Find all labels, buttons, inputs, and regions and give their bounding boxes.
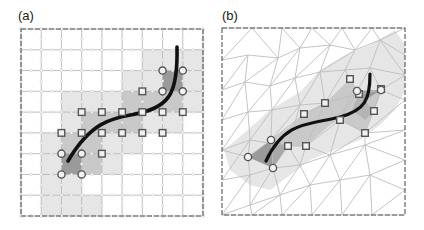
circle-node-marker [159,67,166,74]
square-node-marker [58,130,65,137]
circle-node-marker [179,67,186,74]
square-node-marker [362,130,369,137]
panel-a-structured-grid [20,28,205,218]
circle-node-marker [267,136,274,143]
square-node-marker [301,111,308,118]
square-node-marker [119,109,126,116]
square-node-marker [99,130,106,137]
circle-node-marker [159,88,166,95]
square-node-marker [159,109,166,116]
square-node-marker [139,109,146,116]
square-node-marker [347,76,354,83]
circle-node-marker [58,171,65,178]
circle-node-marker [377,86,384,93]
square-node-marker [322,100,329,107]
circle-node-marker [244,153,251,160]
square-node-marker [78,109,85,116]
square-node-marker [337,117,344,124]
square-node-marker [139,130,146,137]
square-node-marker [119,130,126,137]
figure-canvas [0,0,424,230]
circle-node-marker [78,171,85,178]
square-node-marker [139,88,146,95]
square-node-marker [99,109,106,116]
square-node-marker [285,143,292,150]
square-node-marker [99,150,106,157]
panel-b-triangular-mesh [222,28,405,215]
circle-node-marker [353,87,360,94]
square-node-marker [371,108,378,115]
square-node-marker [179,109,186,116]
circle-node-marker [58,150,65,157]
square-node-marker [78,130,85,137]
circle-node-marker [179,88,186,95]
circle-node-marker [78,150,85,157]
circle-node-marker [269,164,276,171]
square-node-marker [303,143,310,150]
square-node-marker [159,130,166,137]
